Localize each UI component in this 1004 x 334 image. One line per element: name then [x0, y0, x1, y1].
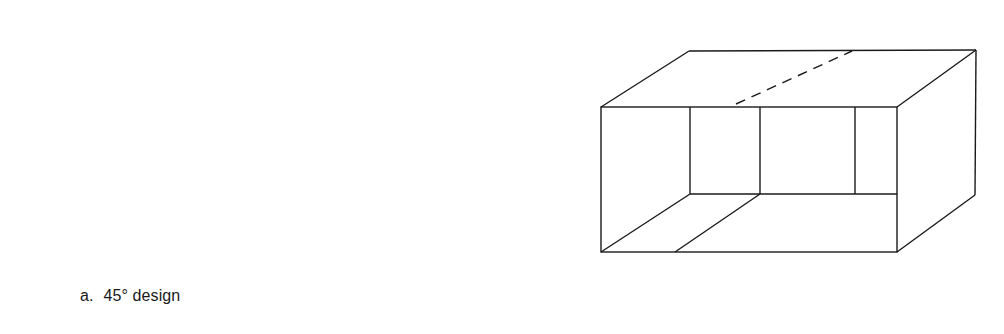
diagram-shoe-box-design [601, 50, 976, 252]
figure-canvas [0, 0, 1004, 334]
caption-a-letter: a. [80, 287, 94, 304]
caption-a: a.45° design [80, 287, 180, 305]
caption-a-label: 45° design [104, 287, 181, 304]
